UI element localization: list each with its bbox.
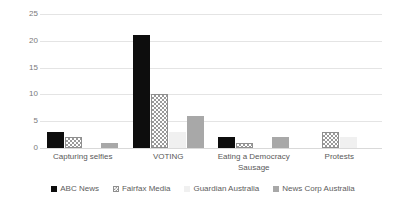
legend-item[interactable]: Fairfax Media	[113, 184, 170, 193]
bar-chart: Capturing selfiesVOTINGEating a Democrac…	[0, 0, 406, 208]
bar-group	[40, 14, 126, 148]
bar	[340, 137, 357, 148]
bar	[236, 143, 253, 148]
x-axis-category-label: VOTING	[126, 152, 212, 163]
bar-group	[211, 14, 297, 148]
bar-group	[126, 14, 212, 148]
legend-swatch-icon	[273, 186, 279, 192]
x-axis-category-label: Protests	[297, 152, 383, 163]
bar	[272, 137, 289, 148]
legend-item[interactable]: Guardian Australia	[184, 184, 259, 193]
legend-swatch-icon	[51, 186, 57, 192]
legend-item-label: News Corp Australia	[282, 184, 354, 193]
bar	[187, 116, 204, 148]
y-axis-tick-label: 0	[8, 144, 38, 152]
bar	[133, 35, 150, 148]
gridline	[40, 148, 382, 149]
legend-swatch-icon	[113, 186, 119, 192]
y-axis-tick-label: 20	[8, 37, 38, 45]
y-axis-tick-label: 10	[8, 90, 38, 98]
bar-group-bars	[40, 14, 126, 148]
legend-item-label: ABC News	[60, 184, 99, 193]
bar-group-bars	[126, 14, 212, 148]
y-axis-tick-label: 15	[8, 64, 38, 72]
bar	[65, 137, 82, 148]
y-axis-tick-label: 5	[8, 117, 38, 125]
legend-item[interactable]: News Corp Australia	[273, 184, 354, 193]
bar-group-bars	[211, 14, 297, 148]
bar	[47, 132, 64, 148]
chart-legend: ABC NewsFairfax MediaGuardian AustraliaN…	[0, 184, 406, 193]
x-axis-category-label: Capturing selfies	[40, 152, 126, 163]
legend-item[interactable]: ABC News	[51, 184, 99, 193]
plot-area	[40, 14, 382, 148]
bar	[218, 137, 235, 148]
bar-group	[297, 14, 383, 148]
bar	[101, 143, 118, 148]
x-axis-category-label: Eating a Democracy Sausage	[211, 152, 297, 174]
bar	[151, 94, 168, 148]
legend-item-label: Fairfax Media	[122, 184, 170, 193]
y-axis-tick-label: 25	[8, 10, 38, 18]
bar	[169, 132, 186, 148]
legend-item-label: Guardian Australia	[193, 184, 259, 193]
bar	[322, 132, 339, 148]
legend-swatch-icon	[184, 186, 190, 192]
bar-group-bars	[297, 14, 383, 148]
